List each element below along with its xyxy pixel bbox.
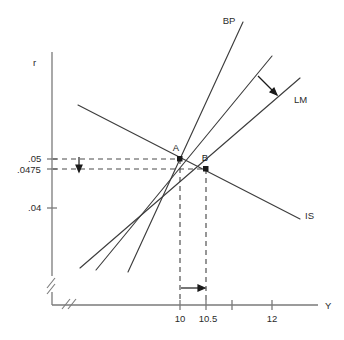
guide-lines-group: [53, 159, 206, 303]
y-tick-label-05: .05: [28, 153, 41, 164]
x-tick-label-10: 10: [175, 313, 186, 324]
y-tick-label-0475: .0475: [17, 164, 41, 175]
point-a-marker: [177, 156, 183, 162]
is-lm-bp-diagram: r Y .05 .0475 .04 10 10.5 12 BP LM IS A …: [0, 0, 344, 340]
diagram-canvas: r Y .05 .0475 .04 10 10.5 12 BP LM IS A …: [0, 0, 344, 340]
x-tick-label-12: 12: [267, 313, 278, 324]
point-a-label: A: [173, 142, 180, 153]
lm-shift-arrow-icon: [258, 76, 277, 95]
point-b-label: B: [202, 152, 208, 163]
bp-curve: [128, 22, 243, 272]
lm-initial-curve: [96, 56, 272, 270]
x-axis-title: Y: [325, 300, 332, 311]
lm-curve-label: LM: [294, 94, 307, 105]
x-tick-label-105: 10.5: [199, 313, 218, 324]
y-axis-title: r: [33, 57, 36, 68]
annotation-arrows-group: [76, 76, 277, 291]
curves-group: [78, 22, 300, 272]
is-curve: [78, 105, 300, 219]
y-axis-break-icon: [47, 278, 55, 294]
axes-group: [47, 52, 318, 309]
is-curve-label: IS: [305, 210, 314, 221]
output-rise-arrow-icon: [181, 285, 205, 291]
y-tick-label-04: .04: [28, 202, 41, 213]
bp-curve-label: BP: [223, 15, 236, 26]
x-axis-break-icon: [62, 299, 76, 309]
point-b-marker: [203, 166, 209, 172]
lm-shifted-curve: [80, 78, 300, 268]
